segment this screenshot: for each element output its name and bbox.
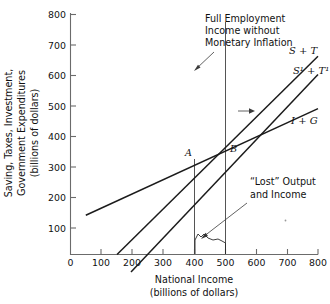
full-employment-line1: Full Employment xyxy=(205,13,285,24)
economics-chart-figure: 800 700 600 500 400 300 200 100 0 100 20… xyxy=(0,0,330,304)
x-axis-title-main: National Income xyxy=(155,274,233,285)
curve-label-s1-plus-t1: S¹ + T¹ xyxy=(293,65,329,76)
y-tick-300: 300 xyxy=(48,162,66,173)
lost-output-line2: and Income xyxy=(250,189,306,200)
x-tick-labels: 0 100 200 300 400 500 600 700 800 xyxy=(68,257,327,268)
y-tick-200: 200 xyxy=(48,192,66,203)
x-tick-100: 100 xyxy=(92,257,110,268)
y-tick-800: 800 xyxy=(48,9,66,20)
y-axis-title-line2: Government Expenditures xyxy=(16,70,27,196)
x-tick-200: 200 xyxy=(123,257,141,268)
x-tick-600: 600 xyxy=(248,257,266,268)
full-employment-line3: Monetary Inflation xyxy=(205,37,293,48)
lost-output-line1: “Lost” Output xyxy=(250,176,316,187)
x-tick-300: 300 xyxy=(154,257,172,268)
point-label-b: B xyxy=(229,143,237,154)
curve-label-s-plus-t: S + T xyxy=(289,45,319,56)
full-employment-line2: Income without xyxy=(205,25,280,36)
x-tick-700: 700 xyxy=(279,257,297,268)
x-tick-800: 800 xyxy=(309,257,327,268)
curve-label-i-plus-g: I + G xyxy=(290,115,318,126)
y-tick-700: 700 xyxy=(48,40,66,51)
y-tick-500: 500 xyxy=(48,101,66,112)
y-axis-title-line1: Saving, Taxes, Investment, xyxy=(3,69,14,198)
x-tick-500: 500 xyxy=(217,257,235,268)
x-tick-0: 0 xyxy=(68,257,74,268)
y-tick-400: 400 xyxy=(48,131,66,142)
x-tick-400: 400 xyxy=(186,257,204,268)
y-axis-title-line3: (billions of dollars) xyxy=(29,89,40,178)
y-tick-600: 600 xyxy=(48,70,66,81)
y-tick-100: 100 xyxy=(48,223,66,234)
x-axis-title-units: (billions of dollars) xyxy=(150,287,239,298)
point-label-a: A xyxy=(184,147,192,158)
print-speck xyxy=(285,220,287,222)
